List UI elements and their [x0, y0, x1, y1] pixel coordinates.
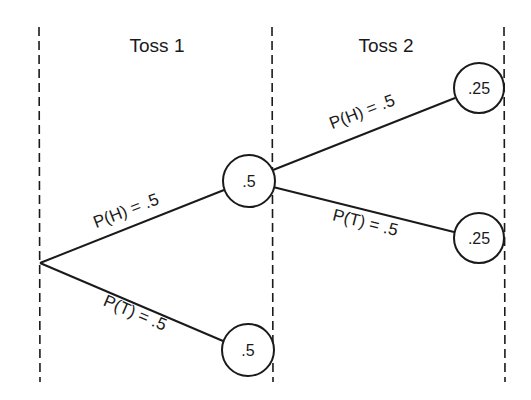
divider-right [504, 27, 505, 382]
node-value: .25 [468, 230, 490, 247]
divider-left [39, 27, 40, 382]
edge-label-toss1-heads: P(H) = .5 [91, 190, 162, 232]
node-toss2-heads: .25 [454, 63, 504, 113]
node-toss1-tails: .5 [222, 324, 274, 376]
divider-middle [272, 27, 273, 382]
node-value: .5 [242, 173, 255, 190]
edge-label-toss1-tails: P(T) = .5 [101, 291, 170, 335]
column-header-toss-1: Toss 1 [130, 35, 185, 56]
node-toss2-tails: .25 [454, 213, 504, 263]
edge-label-toss2-heads: P(H) = .5 [327, 91, 398, 133]
probability-tree-diagram: Toss 1 Toss 2 P(H) = .5 P(T) = .5 P(H) =… [0, 0, 531, 400]
column-header-toss-2: Toss 2 [359, 35, 414, 56]
node-value: .5 [241, 342, 254, 359]
node-value: .25 [468, 80, 490, 97]
node-toss1-heads: .5 [223, 155, 275, 207]
